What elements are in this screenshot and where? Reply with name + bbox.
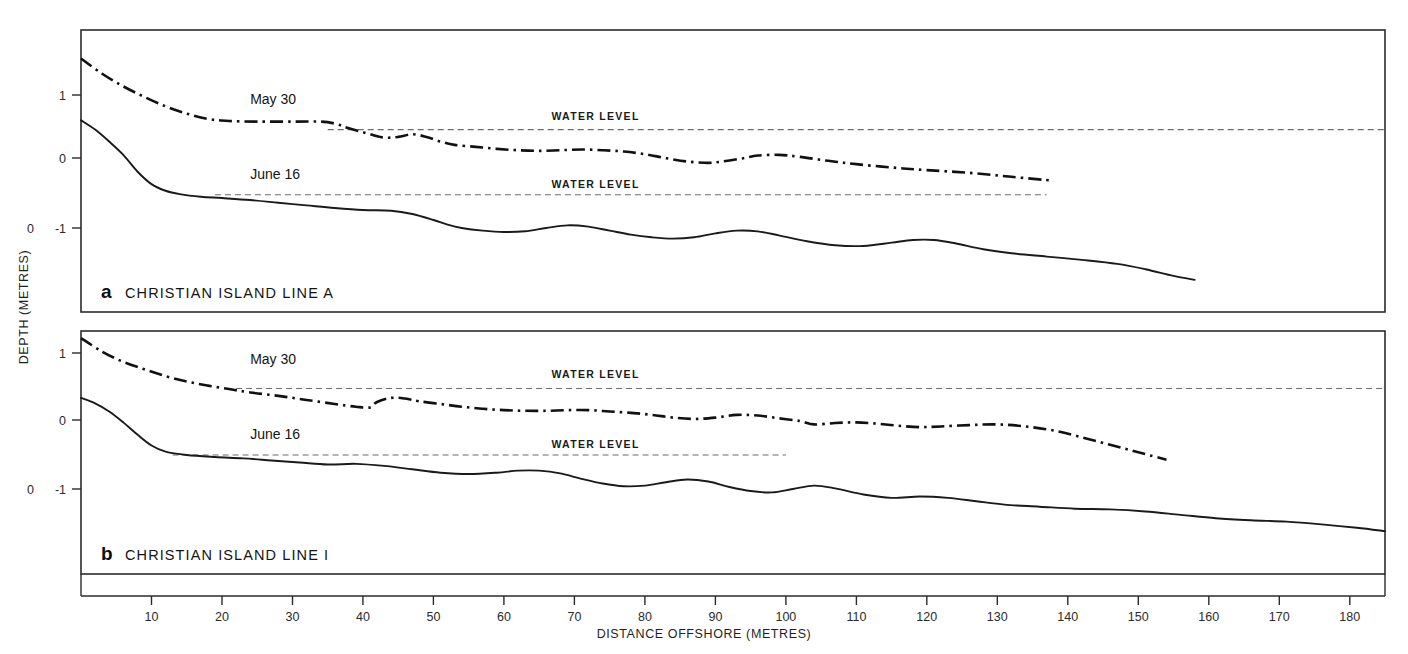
series-label-b-may-30: May 30 [250, 351, 296, 367]
y-tick-label-a-secondary-zero: 0 [27, 222, 34, 236]
series-label-a-may-30: May 30 [250, 91, 296, 107]
x-tick-label-40: 40 [356, 610, 370, 624]
profile-line-a-june-16 [81, 120, 1195, 280]
water-level-label-a-water-level: WATER LEVEL [551, 178, 639, 190]
y-tick-label-b-0: 0 [59, 414, 66, 428]
water-level-label-b-water-level: WATER LEVEL [551, 368, 639, 380]
x-tick-label-130: 130 [987, 610, 1008, 624]
x-tick-label-20: 20 [215, 610, 229, 624]
panel-caption-a: CHRISTIAN ISLAND LINE A [125, 285, 334, 301]
water-level-label-b-water-level: WATER LEVEL [551, 438, 639, 450]
water-level-label-a-water-level: WATER LEVEL [551, 110, 639, 122]
x-tick-label-150: 150 [1128, 610, 1149, 624]
x-tick-label-140: 140 [1057, 610, 1078, 624]
panel-letter-b: b [101, 543, 113, 564]
y-tick-label-b-1: 1 [59, 347, 66, 361]
x-tick-label-100: 100 [775, 610, 796, 624]
x-axis-title: DISTANCE OFFSHORE (METRES) [597, 627, 812, 641]
x-tick-label-110: 110 [846, 610, 866, 624]
x-tick-label-90: 90 [708, 610, 722, 624]
y-tick-label-b-secondary-zero: 0 [27, 483, 34, 497]
plot-frame-b [81, 331, 1385, 574]
y-axis-title: DEPTH (METRES) [17, 250, 31, 365]
x-tick-label-50: 50 [426, 610, 440, 624]
series-label-b-june-16: June 16 [250, 426, 300, 442]
axis-titles: 1020304050607080901001101201301401501601… [17, 250, 1385, 641]
x-tick-label-120: 120 [916, 610, 937, 624]
panel-b: 10-10May 30June 16WATER LEVELWATER LEVEL… [27, 331, 1385, 574]
y-tick-label-a--1: -1 [55, 222, 66, 236]
x-tick-label-170: 170 [1269, 610, 1290, 624]
y-tick-label-a-1: 1 [59, 89, 66, 103]
x-tick-label-30: 30 [286, 610, 300, 624]
y-tick-label-b--1: -1 [55, 483, 66, 497]
x-tick-label-10: 10 [145, 610, 159, 624]
profile-line-b-june-16 [81, 398, 1385, 531]
panel-letter-a: a [101, 281, 112, 302]
profile-chart-svg: 10-10May 30June 16WATER LEVELWATER LEVEL… [0, 0, 1408, 654]
x-tick-label-180: 180 [1339, 610, 1360, 624]
y-tick-label-a-0: 0 [59, 152, 66, 166]
x-tick-label-70: 70 [567, 610, 581, 624]
x-tick-label-160: 160 [1198, 610, 1219, 624]
panel-a: 10-10May 30June 16WATER LEVELWATER LEVEL… [27, 30, 1385, 312]
figure-root: 10-10May 30June 16WATER LEVELWATER LEVEL… [0, 0, 1408, 654]
panel-caption-b: CHRISTIAN ISLAND LINE I [125, 547, 329, 563]
x-tick-label-60: 60 [497, 610, 511, 624]
series-label-a-june-16: June 16 [250, 166, 300, 182]
x-tick-label-80: 80 [638, 610, 652, 624]
